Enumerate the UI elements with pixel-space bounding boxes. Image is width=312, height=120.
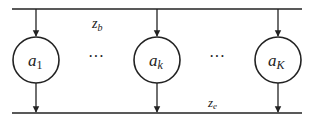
node-aK: aK bbox=[255, 9, 301, 112]
node-label-ak: ak bbox=[149, 51, 164, 72]
node-label-a1: a1 bbox=[28, 51, 43, 72]
node-ak: ak bbox=[134, 9, 180, 112]
ellipsis-1: ··· bbox=[88, 48, 104, 65]
bottom-bus-label: ze bbox=[207, 95, 217, 111]
node-label-aK: aK bbox=[268, 51, 286, 72]
top-bus-label: zb bbox=[91, 16, 102, 33]
diagram-canvas: a1 ak aK ··· ··· zb ze bbox=[0, 0, 312, 120]
node-a1: a1 bbox=[13, 9, 59, 112]
ellipsis-2: ··· bbox=[209, 48, 225, 65]
